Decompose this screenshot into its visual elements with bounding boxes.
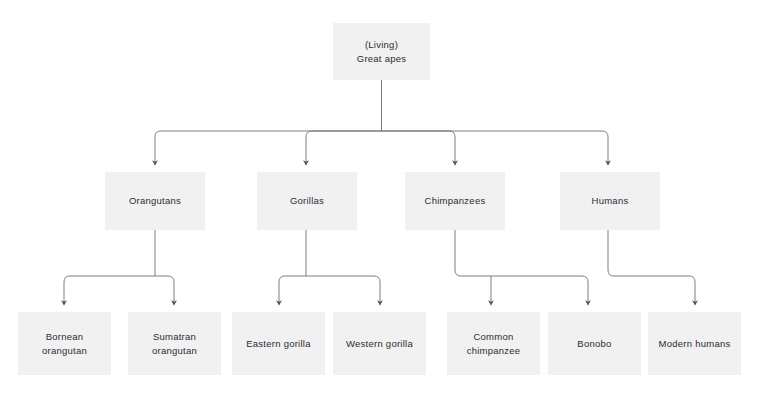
edge-root-to-gorillas bbox=[306, 131, 382, 163]
edge-chimpanzees-stem bbox=[455, 230, 491, 276]
node-great-apes[interactable]: (Living) Great apes bbox=[333, 23, 430, 80]
edge-humans-stem bbox=[608, 230, 695, 303]
edge-gorillas-to-eastern bbox=[279, 276, 306, 303]
node-western-gorilla-label: Western gorilla bbox=[346, 337, 413, 351]
node-sumatran-orangutan[interactable]: Sumatran orangutan bbox=[128, 312, 221, 375]
edge-orangutans-to-bornean bbox=[64, 276, 155, 303]
node-sumatran-orangutan-label: Sumatran orangutan bbox=[152, 330, 197, 358]
node-bonobo-label: Bonobo bbox=[577, 337, 611, 351]
node-chimpanzees[interactable]: Chimpanzees bbox=[405, 172, 505, 230]
node-orangutans-label: Orangutans bbox=[129, 194, 181, 208]
node-eastern-gorilla-label: Eastern gorilla bbox=[246, 337, 310, 351]
node-western-gorilla[interactable]: Western gorilla bbox=[333, 312, 426, 375]
node-common-chimpanzee[interactable]: Common chimpanzee bbox=[447, 312, 540, 375]
edge-root-to-orangutans bbox=[155, 131, 382, 163]
node-eastern-gorilla[interactable]: Eastern gorilla bbox=[232, 312, 325, 375]
node-bonobo[interactable]: Bonobo bbox=[548, 312, 641, 375]
node-modern-humans-label: Modern humans bbox=[659, 337, 731, 351]
edge-root-to-humans bbox=[382, 131, 609, 163]
node-common-chimpanzee-label: Common chimpanzee bbox=[467, 330, 521, 358]
node-chimpanzees-label: Chimpanzees bbox=[425, 194, 486, 208]
edge-chimpanzees-to-bonobo bbox=[491, 276, 588, 303]
node-orangutans[interactable]: Orangutans bbox=[105, 172, 205, 230]
node-gorillas[interactable]: Gorillas bbox=[257, 172, 357, 230]
edge-gorillas-to-western bbox=[306, 276, 380, 303]
node-bornean-orangutan[interactable]: Bornean orangutan bbox=[18, 312, 111, 375]
node-humans[interactable]: Humans bbox=[560, 172, 660, 230]
node-gorillas-label: Gorillas bbox=[290, 194, 324, 208]
node-great-apes-label: (Living) Great apes bbox=[357, 38, 407, 66]
edge-root-to-chimpanzees bbox=[382, 131, 456, 163]
node-humans-label: Humans bbox=[592, 194, 629, 208]
node-modern-humans[interactable]: Modern humans bbox=[648, 312, 741, 375]
cladogram-diagram: (Living) Great apes Orangutans Gorillas … bbox=[0, 0, 761, 393]
edge-orangutans-to-sumatran bbox=[155, 276, 174, 303]
node-bornean-orangutan-label: Bornean orangutan bbox=[42, 330, 87, 358]
